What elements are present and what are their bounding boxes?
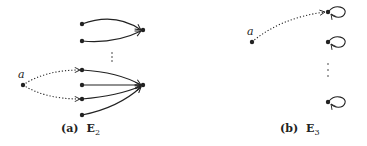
subfigure-b-group <box>250 7 345 107</box>
caption-tag: (b) <box>280 122 298 135</box>
node <box>80 22 84 26</box>
dotted-edge <box>252 12 325 42</box>
caption-tag: (a) <box>61 122 79 135</box>
node <box>141 83 145 87</box>
ellipsis-dots-b <box>327 63 329 77</box>
edge <box>82 19 141 30</box>
node <box>326 100 330 104</box>
edge <box>82 86 141 99</box>
caption-subscript: 2 <box>95 128 100 137</box>
ellipsis-dots-a <box>111 52 113 62</box>
node-label-a: a <box>18 68 25 81</box>
dotted-edge <box>23 85 80 99</box>
subfigure-a-bottom-group <box>21 68 145 117</box>
node-label-a: a <box>247 25 254 38</box>
caption-symbol-letter: E <box>306 122 314 135</box>
node <box>80 113 84 117</box>
node <box>141 28 145 32</box>
node <box>326 10 330 14</box>
dotted-edge <box>23 70 80 85</box>
node <box>80 83 84 87</box>
self-loop <box>329 37 345 47</box>
self-loop <box>329 97 345 107</box>
node <box>80 39 84 43</box>
edge <box>82 31 141 42</box>
node <box>80 68 84 72</box>
node-a <box>21 83 25 87</box>
subfigure-a-top-group <box>80 19 145 43</box>
caption-a: (a)E2 <box>61 122 100 137</box>
self-loop <box>329 7 345 17</box>
node <box>80 97 84 101</box>
node <box>326 40 330 44</box>
edge <box>82 70 141 85</box>
node-a <box>250 40 254 44</box>
caption-b: (b)E3 <box>280 122 320 137</box>
caption-symbol: E2 <box>87 122 100 135</box>
caption-subscript: 3 <box>315 128 320 137</box>
caption-symbol: E3 <box>306 122 319 135</box>
caption-symbol-letter: E <box>87 122 95 135</box>
edge <box>82 87 141 115</box>
